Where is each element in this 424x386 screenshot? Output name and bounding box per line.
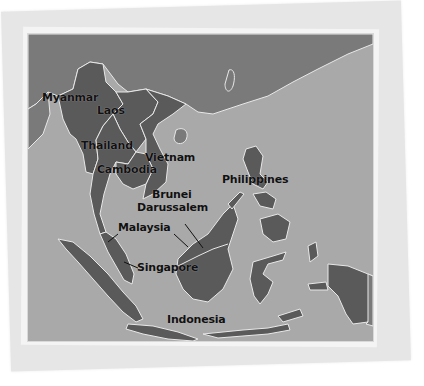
- borneo-shape: [176, 204, 238, 302]
- southeast-asia-map: [28, 34, 373, 341]
- sulawesi-shape: [250, 252, 286, 304]
- halmahera-shape: [308, 242, 318, 262]
- seram-shape: [308, 282, 328, 290]
- label-thailand: Thailand: [81, 139, 133, 152]
- lesser-sunda-islands: [203, 324, 290, 338]
- malaysia-borneo-leader-line: [174, 234, 188, 247]
- label-indonesia: Indonesia: [167, 313, 226, 326]
- label-malaysia: Malaysia: [118, 221, 171, 234]
- papua-indonesia-shape: [328, 264, 373, 324]
- map-frame: [27, 33, 374, 342]
- hainan-island: [174, 129, 187, 144]
- label-myanmar: Myanmar: [42, 91, 98, 104]
- mindanao-shape: [260, 214, 290, 242]
- timor-shape: [278, 309, 303, 322]
- label-brunei: Brunei: [152, 188, 192, 201]
- label-singapore: Singapore: [137, 261, 198, 274]
- label-cambodia: Cambodia: [97, 163, 157, 176]
- label-darussalem: Darussalem: [137, 201, 208, 214]
- label-laos: Laos: [97, 104, 125, 117]
- label-philippines: Philippines: [222, 173, 288, 186]
- palawan-shape: [228, 192, 244, 209]
- java-shape: [126, 324, 198, 341]
- visayas-shape: [253, 192, 276, 209]
